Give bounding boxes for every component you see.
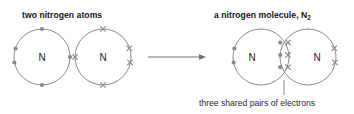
reaction-arrow <box>148 54 206 60</box>
electron-dot-top <box>40 27 44 31</box>
electron-dot-left-lower <box>12 60 16 64</box>
diagram-canvas: two nitrogen atoms a nitrogen molecule, … <box>0 0 354 114</box>
bonding-diagram-svg: N N <box>0 0 354 114</box>
electron-dot-molecule-left-upper <box>232 46 236 50</box>
atom-1-symbol: N <box>38 52 45 63</box>
electron-dot-right <box>68 55 72 59</box>
molecule-right-shell-circle <box>280 29 336 85</box>
electron-dot-left-upper <box>14 46 18 50</box>
shared-electron-cross-1 <box>286 40 291 45</box>
nitrogen-atom-2: N <box>73 27 133 88</box>
molecule-left-shell-circle <box>233 29 289 85</box>
arrow-head <box>199 54 206 60</box>
shared-electron-dot-1 <box>278 41 282 45</box>
molecule-symbol-left: N <box>248 52 255 63</box>
nitrogen-molecule: N N <box>232 29 338 85</box>
molecule-symbol-right: N <box>313 52 320 63</box>
molecule-lone-pair-right <box>332 46 338 65</box>
molecule-lone-pair-left <box>232 46 237 64</box>
atom-2-symbol: N <box>99 52 106 63</box>
shared-pair-row-3 <box>278 65 290 70</box>
electron-dot-molecule-left-lower <box>232 60 236 64</box>
nitrogen-atom-1: N <box>12 27 72 87</box>
electron-dot-bottom <box>40 83 44 87</box>
shared-electron-cross-2 <box>286 53 291 58</box>
shared-electron-dot-3 <box>278 65 282 69</box>
shared-electron-dot-2 <box>278 53 282 57</box>
